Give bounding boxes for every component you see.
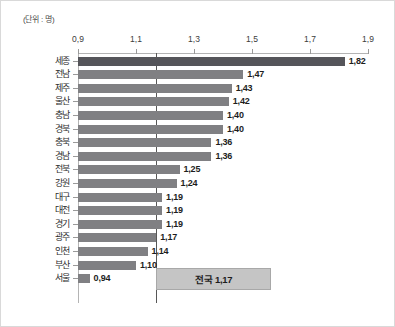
bar-value-label: 1,82 [349,55,366,68]
category-label: 충북 [22,136,70,149]
bar-value-label: 1,10 [140,259,157,272]
bar-value-label: 1,42 [233,95,250,108]
x-axis-tick-label: 1,3 [188,34,200,44]
category-label: 전남 [22,68,70,81]
category-label: 부산 [22,259,70,272]
x-axis-tick-label: 1,5 [246,34,258,44]
bar-value-label: 0,94 [94,272,111,285]
national-average-callout: 전국 1,17 [156,268,271,290]
category-label: 서울 [22,272,70,285]
bar [78,70,243,79]
category-label: 세종 [22,55,70,68]
bar-row: 충남1,40 [1,109,395,122]
bar-row: 인천1,14 [1,245,395,258]
bar [78,84,232,93]
category-label: 울산 [22,95,70,108]
category-label: 제주 [22,82,70,95]
category-label: 광주 [22,231,70,244]
bar-row: 경북1,40 [1,123,395,136]
bar-value-label: 1,40 [227,123,244,136]
category-label: 전북 [22,163,70,176]
bar-value-label: 1,19 [166,191,183,204]
bar [78,138,211,147]
x-axis-tick-mark [368,49,369,54]
bar-value-label: 1,43 [236,82,253,95]
plot-area: 0,91,11,31,51,71,9 세종1,82전남1,47제주1,43울산1… [1,1,395,327]
bar [78,206,162,215]
bar-value-label: 1,47 [247,68,264,81]
bar-value-label: 1,17 [160,231,177,244]
category-label: 강원 [22,177,70,190]
bar-row: 충북1,36 [1,136,395,149]
bar-value-label: 1,14 [152,245,169,258]
bar [78,193,162,202]
bar-value-label: 1,19 [166,204,183,217]
bar-value-label: 1,24 [181,177,198,190]
x-axis-tick-mark [136,49,137,54]
bar-row: 강원1,24 [1,177,395,190]
category-label: 경남 [22,150,70,163]
bar [78,179,177,188]
bar-row: 대전1,19 [1,204,395,217]
x-axis-tick-label: 1,1 [130,34,142,44]
category-label: 충남 [22,109,70,122]
category-label: 경기 [22,218,70,231]
bar [78,233,156,242]
bar-row: 광주1,17 [1,231,395,244]
bar-value-label: 1,36 [215,150,232,163]
bar [78,152,211,161]
bar-row: 제주1,43 [1,82,395,95]
x-axis-tick-mark [194,49,195,54]
bar-value-label: 1,40 [227,109,244,122]
bar-row: 경기1,19 [1,218,395,231]
category-label: 경북 [22,123,70,136]
x-axis-tick-mark [78,49,79,54]
bar-row: 울산1,42 [1,95,395,108]
bar-row: 전남1,47 [1,68,395,81]
x-axis-tick-label: 1,7 [304,34,316,44]
bar [78,111,223,120]
category-label: 대구 [22,191,70,204]
x-axis-tick-mark [310,49,311,54]
bar [78,165,180,174]
x-axis-tick-mark [252,49,253,54]
bar-value-label: 1,19 [166,218,183,231]
national-average-label: 전국 1,17 [157,269,270,291]
category-label: 인천 [22,245,70,258]
bar-row: 세종1,82 [1,55,395,68]
bar-value-label: 1,36 [215,136,232,149]
x-axis-tick-label: 1,9 [362,34,374,44]
chart-container: (단위 : 명) 0,91,11,31,51,71,9 세종1,82전남1,47… [0,0,395,327]
category-label: 대전 [22,204,70,217]
bar [78,220,162,229]
bar [78,274,90,283]
x-axis-tick-label: 0,9 [72,34,84,44]
bar-row: 대구1,19 [1,191,395,204]
bar [78,261,136,270]
bar [78,247,148,256]
bar [78,97,229,106]
bar [78,125,223,134]
bar-row: 전북1,25 [1,163,395,176]
bar-value-label: 1,25 [184,163,201,176]
bar [78,57,345,66]
bar-row: 경남1,36 [1,150,395,163]
